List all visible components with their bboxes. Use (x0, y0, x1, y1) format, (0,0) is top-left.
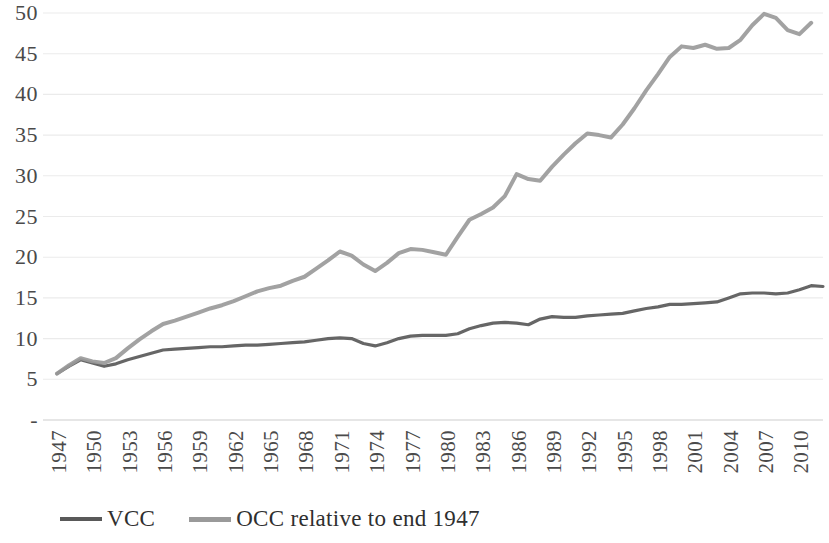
x-tick-label: 1971 (332, 430, 353, 474)
x-tick-label: 1965 (261, 430, 282, 474)
x-tick-label: 2007 (756, 430, 777, 474)
x-tick-label: 1989 (544, 430, 565, 474)
x-tick-label: 2010 (791, 430, 812, 474)
legend-item-occ: OCC relative to end 1947 (189, 506, 480, 532)
x-tick-label: 1968 (296, 430, 317, 474)
legend-label-vcc: VCC (107, 506, 155, 532)
x-tick-label: 1998 (650, 430, 671, 474)
x-axis: 1947195019531956195919621965196819711974… (0, 424, 829, 504)
legend-label-occ: OCC relative to end 1947 (236, 506, 480, 532)
x-tick-label: 1983 (473, 430, 494, 474)
x-tick-label: 1995 (615, 430, 636, 474)
x-tick-label: 1959 (190, 430, 211, 474)
legend-swatch-vcc (60, 517, 102, 521)
x-tick-label: 1953 (120, 430, 141, 474)
x-tick-label: 1977 (403, 430, 424, 474)
chart-legend: VCC OCC relative to end 1947 (60, 506, 480, 532)
x-tick-label: 1974 (367, 430, 388, 474)
x-tick-label: 1980 (438, 430, 459, 474)
x-tick-label: 1947 (49, 430, 70, 474)
x-tick-label: 1950 (84, 430, 105, 474)
legend-swatch-occ (189, 517, 231, 522)
x-tick-label: 1956 (155, 430, 176, 474)
series-group (57, 14, 823, 374)
series-line-occ (57, 14, 811, 374)
x-tick-label: 1986 (509, 430, 530, 474)
x-tick-label: 1962 (226, 430, 247, 474)
x-tick-label: 2001 (685, 430, 706, 474)
gridlines (43, 13, 823, 420)
line-chart: -5101520253035404550 1947195019531956195… (0, 0, 829, 543)
x-tick-label: 1992 (579, 430, 600, 474)
series-line-vcc (57, 286, 823, 374)
x-tick-label: 2004 (721, 430, 742, 474)
legend-item-vcc: VCC (60, 506, 155, 532)
